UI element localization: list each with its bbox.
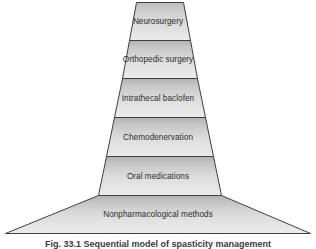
figure-caption: Fig. 33.1 Sequential model of spasticity… [0, 240, 316, 249]
pyramid-label-chemodenervation: Chemodenervation [0, 134, 316, 142]
pyramid-label-orthopedic-surgery: Orthopedic surgery [0, 56, 316, 64]
pyramid-label-oral-medications: Oral medications [0, 173, 316, 181]
pyramid-label-nonpharmacological-methods: Nonpharmacological methods [0, 211, 316, 219]
pyramid-label-intrathecal-baclofen: Intrathecal baclofen [0, 95, 316, 103]
pyramid-figure: Neurosurgery Orthopedic surgery Intrathe… [0, 0, 316, 249]
pyramid-label-neurosurgery: Neurosurgery [0, 18, 316, 26]
